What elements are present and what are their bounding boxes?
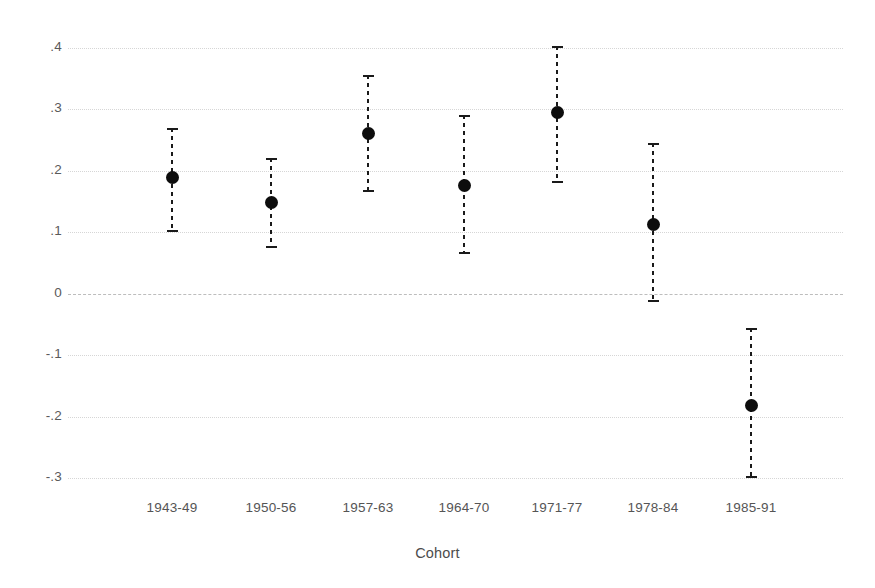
y-tick-label: 0 bbox=[22, 285, 62, 300]
x-tick-label: 1978-84 bbox=[628, 500, 679, 515]
confidence-interval-cap-lower bbox=[746, 476, 757, 478]
gridline bbox=[68, 109, 843, 110]
point-marker bbox=[551, 106, 564, 119]
point-marker bbox=[265, 196, 278, 209]
x-axis-title: Cohort bbox=[0, 545, 875, 561]
zero-reference-line bbox=[68, 294, 843, 295]
confidence-interval-cap-upper bbox=[552, 46, 563, 48]
y-tick-label: -.2 bbox=[22, 408, 62, 423]
gridline bbox=[68, 171, 843, 172]
y-tick-label: -.1 bbox=[22, 346, 62, 361]
gridline bbox=[68, 478, 843, 479]
confidence-interval-cap-upper bbox=[648, 143, 659, 145]
confidence-interval-cap-lower bbox=[167, 230, 178, 232]
confidence-interval-cap-upper bbox=[363, 75, 374, 77]
x-tick-label: 1957-63 bbox=[343, 500, 394, 515]
cohort-effect-plot: .4.3.2.10-.1-.2-.3 1943-491950-561957-63… bbox=[0, 0, 875, 588]
y-tick-label: -.3 bbox=[22, 469, 62, 484]
point-marker bbox=[458, 179, 471, 192]
confidence-interval-cap-lower bbox=[363, 190, 374, 192]
x-tick-label: 1964-70 bbox=[439, 500, 490, 515]
confidence-interval-cap-lower bbox=[552, 181, 563, 183]
gridline bbox=[68, 355, 843, 356]
point-marker bbox=[745, 399, 758, 412]
confidence-interval-cap-upper bbox=[266, 158, 277, 160]
y-tick-label: .2 bbox=[22, 162, 62, 177]
plot-area: .4.3.2.10-.1-.2-.3 1943-491950-561957-63… bbox=[0, 0, 875, 588]
gridline bbox=[68, 417, 843, 418]
y-tick-label: .3 bbox=[22, 100, 62, 115]
confidence-interval-cap-lower bbox=[459, 252, 470, 254]
confidence-interval-cap-lower bbox=[266, 246, 277, 248]
confidence-interval-cap-lower bbox=[648, 300, 659, 302]
point-marker bbox=[362, 127, 375, 140]
point-marker bbox=[166, 171, 179, 184]
x-tick-label: 1943-49 bbox=[147, 500, 198, 515]
y-tick-label: .1 bbox=[22, 223, 62, 238]
confidence-interval-cap-upper bbox=[459, 115, 470, 117]
confidence-interval-cap-upper bbox=[167, 128, 178, 130]
point-marker bbox=[647, 218, 660, 231]
x-tick-label: 1950-56 bbox=[246, 500, 297, 515]
gridline bbox=[68, 232, 843, 233]
confidence-interval-cap-upper bbox=[746, 328, 757, 330]
x-tick-label: 1985-91 bbox=[726, 500, 777, 515]
y-tick-label: .4 bbox=[22, 39, 62, 54]
x-tick-label: 1971-77 bbox=[532, 500, 583, 515]
gridline bbox=[68, 48, 843, 49]
